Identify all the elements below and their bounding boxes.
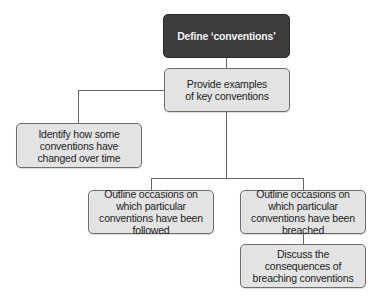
node-discuss-consequences: Discuss the consequences of breaching co… [240, 244, 366, 288]
connector-define-examples [226, 58, 227, 68]
node-outline-followed: Outline occasions on which particular co… [88, 190, 214, 234]
node-label: Define ‘conventions’ [173, 30, 280, 42]
node-provide-examples: Provide examples of key conventions [164, 68, 290, 112]
node-outline-breached: Outline occasions on which particular co… [240, 190, 366, 234]
node-label: Discuss the consequences of breaching co… [241, 248, 365, 284]
node-label: Outline occasions on which particular co… [89, 188, 213, 236]
connector-branch-h [151, 178, 304, 179]
node-label: Outline occasions on which particular co… [241, 188, 365, 236]
node-label: Provide examples of key conventions [178, 78, 276, 102]
connector-examples-changed-h [78, 90, 164, 91]
node-identify-changes: Identify how some conventions have chang… [16, 123, 142, 168]
connector-examples-changed-v [78, 90, 79, 123]
node-label: Identify how some conventions have chang… [19, 128, 139, 164]
connector-examples-down [226, 112, 227, 178]
node-define-conventions: Define ‘conventions’ [163, 14, 290, 58]
